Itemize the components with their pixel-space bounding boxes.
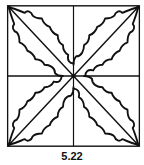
corner-dot-bottom-left (8, 142, 11, 146)
center-dot (71, 74, 75, 78)
figure-caption: 5.22 (0, 150, 144, 162)
holly-quilt-block-figure (5, 3, 142, 149)
corner-dot-top-right (136, 6, 139, 10)
corner-dot-bottom-right (136, 142, 139, 146)
corner-dot-top-left (8, 6, 11, 10)
